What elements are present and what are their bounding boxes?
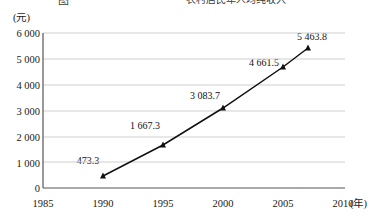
marker-2000	[220, 105, 226, 111]
series-polyline	[103, 48, 308, 176]
data-series-line	[103, 48, 308, 176]
line-chart-plot	[0, 0, 384, 223]
marker-2008	[305, 45, 311, 51]
marker-2005	[280, 64, 286, 70]
gridlines	[43, 33, 345, 162]
